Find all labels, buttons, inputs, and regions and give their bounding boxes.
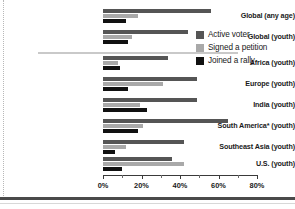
x-axis-tick <box>257 175 258 179</box>
x-axis-minor-tick <box>238 175 239 178</box>
x-axis-tick-label: 60% <box>211 181 226 190</box>
bar <box>103 162 184 166</box>
x-axis-tick-label: 40% <box>173 181 188 190</box>
bar <box>103 82 163 86</box>
bar <box>103 66 120 70</box>
bar <box>103 129 138 133</box>
bar <box>103 30 188 34</box>
bar <box>103 140 184 144</box>
bar <box>103 150 115 154</box>
x-axis-tick-label: 20% <box>134 181 149 190</box>
legend-label: Signed a petition <box>208 43 267 52</box>
bar <box>103 40 128 44</box>
bar <box>103 9 211 13</box>
bar <box>103 145 126 149</box>
legend-swatch-icon <box>196 31 204 39</box>
bar <box>103 124 143 128</box>
frame-bottom-rule <box>0 197 295 200</box>
bar <box>103 87 128 91</box>
x-axis-tick <box>142 175 143 179</box>
legend-swatch-icon <box>196 57 204 65</box>
frame-bottom-hairline <box>0 203 295 204</box>
legend-item: Active voter <box>196 28 267 41</box>
x-axis-tick <box>103 175 104 179</box>
bar <box>103 14 138 18</box>
bar <box>103 108 147 112</box>
x-axis-tick-label: 0% <box>98 181 109 190</box>
bar <box>103 157 172 161</box>
bar <box>103 35 132 39</box>
chart-legend: Active voterSigned a petitionJoined a ra… <box>196 28 267 67</box>
legend-item: Signed a petition <box>196 41 267 54</box>
x-axis-tick-label: 80% <box>250 181 265 190</box>
legend-swatch-icon <box>196 44 204 52</box>
x-axis-tick <box>219 175 220 179</box>
bar <box>103 167 122 171</box>
legend-item: Joined a rally <box>196 54 267 67</box>
chart-figure: Global (any age)Global (youth)Africa (yo… <box>0 0 295 209</box>
x-axis-tick <box>180 175 181 179</box>
x-axis-minor-tick <box>199 175 200 178</box>
legend-label: Joined a rally <box>208 56 255 65</box>
frame-left-border <box>3 0 4 196</box>
bar <box>103 119 228 123</box>
bar <box>103 61 118 65</box>
bar <box>103 103 140 107</box>
bar <box>103 77 197 81</box>
legend-label: Active voter <box>208 30 250 39</box>
x-axis-minor-tick <box>161 175 162 178</box>
bar <box>103 56 168 60</box>
bar <box>103 98 197 102</box>
x-axis-minor-tick <box>122 175 123 178</box>
bar <box>103 19 126 23</box>
